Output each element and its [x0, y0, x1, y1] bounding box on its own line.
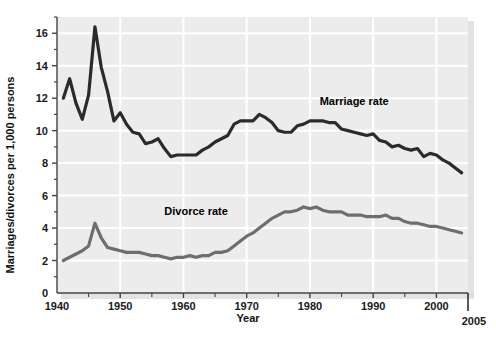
y-tick-label: 12 — [36, 92, 48, 104]
x-tick-label: 1960 — [171, 300, 195, 312]
y-tick-label: 14 — [36, 60, 49, 72]
x-tick-label: 1970 — [234, 300, 258, 312]
y-tick-label: 2 — [42, 255, 48, 267]
y-tick-label: 0 — [42, 287, 48, 299]
y-tick-label: 8 — [42, 157, 48, 169]
x-tick-label: 1950 — [108, 300, 132, 312]
y-tick-label: 6 — [42, 190, 48, 202]
x-tick-label: 1990 — [361, 300, 385, 312]
y-axis-title: Marriages/divorces per 1,000 persons — [4, 77, 16, 274]
x-tick-label: 1980 — [298, 300, 322, 312]
series-label-divorce-rate: Divorce rate — [164, 205, 228, 217]
series-label-marriage-rate: Marriage rate — [320, 95, 389, 107]
x-axis-title: Year — [236, 312, 260, 324]
line-chart: 0246810121416 19401950196019701980199020… — [0, 0, 496, 345]
x-tick-label: 2000 — [424, 300, 448, 312]
y-tick-label: 16 — [36, 27, 48, 39]
x-tick-label: 1940 — [45, 300, 69, 312]
x-axis-end-label: 2005 — [462, 315, 486, 327]
y-tick-label: 10 — [36, 125, 48, 137]
chart-container: 0246810121416 19401950196019701980199020… — [0, 0, 496, 345]
y-tick-label: 4 — [42, 222, 49, 234]
